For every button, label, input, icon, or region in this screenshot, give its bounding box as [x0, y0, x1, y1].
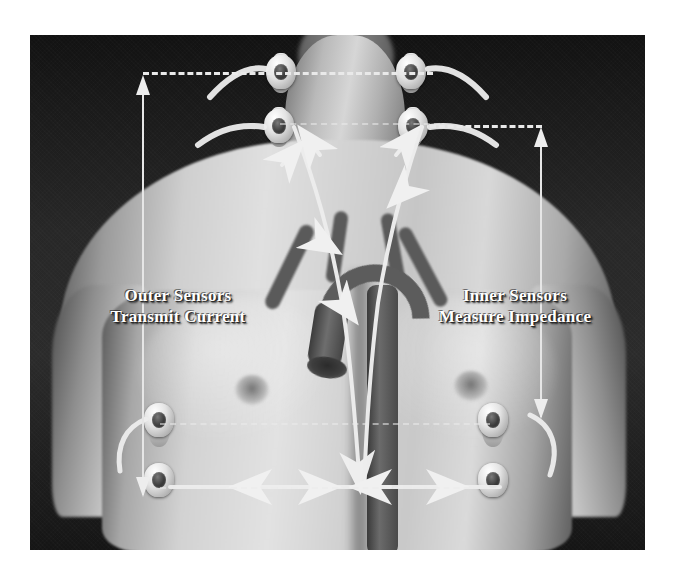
inner-sensors-label-line1: Inner Sensors [463, 286, 567, 305]
outer-sensors-label: Outer Sensors Transmit Current [66, 285, 290, 327]
neck-alignment-line [280, 123, 440, 125]
outer-lower-alignment-line [160, 487, 490, 489]
outer-span-top-dashed-line [143, 72, 433, 75]
inner-span-vertical-line [540, 135, 542, 417]
outer-sensors-label-line2: Transmit Current [66, 306, 290, 327]
figure-canvas: Outer Sensors Transmit Current Inner Sen… [0, 0, 675, 576]
inner-sensors-label: Inner Sensors Measure Impedance [392, 285, 638, 327]
inner-lower-alignment-line [160, 423, 490, 425]
inner-sensors-label-line2: Measure Impedance [392, 306, 638, 327]
illustration-image: Outer Sensors Transmit Current Inner Sen… [30, 35, 645, 550]
inner-span-top-dashed-line [430, 125, 542, 128]
outer-sensors-label-line1: Outer Sensors [124, 286, 231, 305]
